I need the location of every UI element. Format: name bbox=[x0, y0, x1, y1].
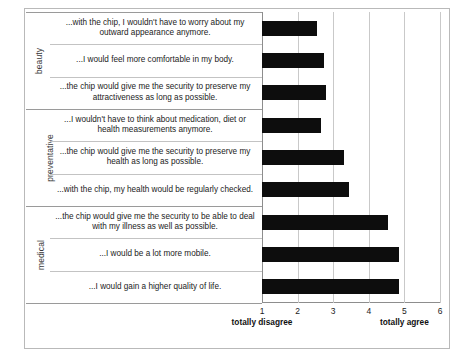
x-axis: 123456totally disagreetotally agree bbox=[262, 306, 440, 336]
plot-area bbox=[262, 12, 440, 303]
item-label-text: ...I would be a lot more mobile. bbox=[99, 249, 211, 260]
item-separator bbox=[50, 174, 262, 175]
bar bbox=[262, 182, 349, 197]
x-tick-label: 2 bbox=[295, 306, 300, 316]
gridline-5 bbox=[404, 12, 405, 303]
x-tick-label: 3 bbox=[331, 306, 336, 316]
item-label-text: ...the chip would give me the security t… bbox=[53, 147, 257, 168]
bar bbox=[262, 150, 344, 165]
item-label: ...with the chip, I wouldn't have to wor… bbox=[50, 12, 262, 44]
bar bbox=[262, 21, 317, 36]
bar bbox=[262, 279, 399, 294]
group-separator bbox=[26, 206, 262, 207]
gridline-6 bbox=[440, 12, 441, 303]
group-label-column: beauty preventative medical bbox=[26, 10, 50, 305]
group-separator bbox=[26, 12, 262, 13]
bar bbox=[262, 215, 388, 230]
group-separator bbox=[26, 109, 262, 110]
item-label-text: ...with the chip, my health would be reg… bbox=[57, 185, 253, 196]
item-label: ...the chip would give me the security t… bbox=[50, 77, 262, 109]
item-label: ...the chip would give me the security t… bbox=[50, 206, 262, 238]
x-tick-label: 1 bbox=[260, 306, 265, 316]
bar bbox=[262, 53, 324, 68]
item-label-column: ...with the chip, I wouldn't have to wor… bbox=[50, 12, 262, 303]
group-separator bbox=[26, 303, 262, 304]
item-separator bbox=[50, 238, 262, 239]
x-axis-line bbox=[262, 302, 440, 303]
item-label: ...I would gain a higher quality of life… bbox=[50, 271, 262, 303]
item-label-text: ...I would feel more comfortable in my b… bbox=[76, 55, 234, 66]
item-label-text: ...the chip would give me the security t… bbox=[53, 212, 257, 233]
x-tick-label: 4 bbox=[366, 306, 371, 316]
item-label: ...with the chip, my health would be reg… bbox=[50, 174, 262, 206]
x-tick-label: 5 bbox=[402, 306, 407, 316]
scale-anchor-high: totally agree bbox=[380, 317, 429, 327]
item-label: ...I would be a lot more mobile. bbox=[50, 238, 262, 270]
item-separator bbox=[50, 44, 262, 45]
item-label: ...the chip would give me the security t… bbox=[50, 141, 262, 173]
item-separator bbox=[50, 141, 262, 142]
group-label-beauty-text: beauty bbox=[33, 47, 45, 73]
item-label: ...I wouldn't have to think about medica… bbox=[50, 109, 262, 141]
bar bbox=[262, 85, 326, 100]
x-tick-label: 6 bbox=[438, 306, 443, 316]
item-separator bbox=[50, 77, 262, 78]
item-label-text: ...with the chip, I wouldn't have to wor… bbox=[53, 18, 257, 39]
chart-figure: beauty preventative medical ...with the … bbox=[0, 0, 470, 361]
bar bbox=[262, 118, 321, 133]
item-separator bbox=[50, 271, 262, 272]
bar bbox=[262, 247, 399, 262]
group-label-beauty: beauty bbox=[26, 55, 50, 67]
group-label-preventative: preventative bbox=[26, 152, 50, 164]
scale-anchor-low: totally disagree bbox=[232, 317, 293, 327]
group-label-medical: medical bbox=[26, 249, 50, 261]
item-label-text: ...I wouldn't have to think about medica… bbox=[53, 115, 257, 136]
item-label: ...I would feel more comfortable in my b… bbox=[50, 44, 262, 76]
item-label-text: ...the chip would give me the security t… bbox=[53, 82, 257, 103]
item-label-text: ...I would gain a higher quality of life… bbox=[89, 282, 221, 293]
group-label-medical-text: medical bbox=[35, 240, 47, 270]
